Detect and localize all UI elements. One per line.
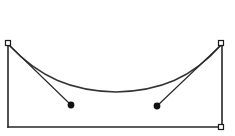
left-node-dot[interactable] [68, 102, 75, 109]
chord-group [9, 45, 221, 106]
top-right-handle[interactable] [219, 41, 224, 46]
bottom-right-handle[interactable] [219, 125, 224, 130]
top-left-handle[interactable] [6, 41, 11, 46]
right-chord-line [157, 45, 221, 106]
right-node-dot[interactable] [154, 103, 161, 110]
figure-root [0, 0, 235, 136]
node-dot-group[interactable] [68, 102, 161, 110]
curve-group [9, 45, 221, 92]
catenary-diagram-svg [0, 0, 235, 136]
handle-group[interactable] [6, 41, 224, 130]
catenary-curve [9, 45, 221, 92]
frame-group [8, 43, 222, 127]
left-chord-line [9, 45, 71, 105]
